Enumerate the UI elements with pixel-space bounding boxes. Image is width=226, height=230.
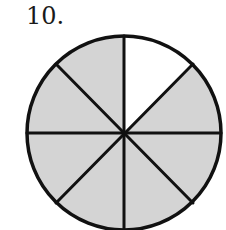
fraction-circle-diagram xyxy=(0,0,226,230)
